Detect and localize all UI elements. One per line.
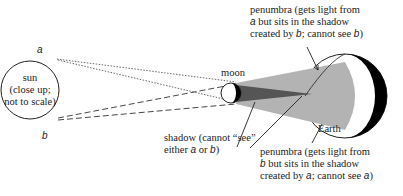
label-point-b: b	[42, 130, 48, 142]
moon	[221, 83, 241, 103]
moon-label: moon	[221, 67, 245, 79]
penumbra-top-label: penumbra (gets light from a but sits in …	[250, 4, 363, 40]
earth-label: Earth	[318, 123, 341, 135]
penumbra-bottom-label: penumbra (gets light from b but sits in …	[260, 146, 373, 182]
rays-from-a	[57, 59, 236, 102]
rays-from-b	[58, 84, 236, 120]
shadow-label: shadow (cannot “see” either a or b)	[164, 132, 256, 156]
sun-label: sun (close up; not to scale)	[4, 72, 56, 108]
label-point-a: a	[37, 44, 43, 56]
